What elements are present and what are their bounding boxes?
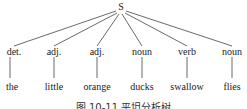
pos-node-noun-2: noun [222, 47, 242, 57]
root-node: S [118, 2, 124, 12]
pos-node-adj-2: adj. [90, 47, 105, 57]
word-swallow: swallow [170, 82, 203, 92]
word-the: the [6, 82, 18, 92]
pos-node-verb: verb [178, 47, 196, 57]
word-little: little [45, 82, 63, 92]
word-flies: flies [223, 82, 240, 92]
word-orange: orange [83, 82, 110, 92]
word-ducks: ducks [130, 82, 153, 92]
figure-caption: 图 10-11 平坦分析树 [76, 99, 171, 109]
pos-node-noun-1: noun [132, 47, 152, 57]
tree-edges [0, 0, 247, 109]
pos-node-det: det. [7, 47, 22, 57]
pos-node-adj-1: adj. [47, 47, 62, 57]
